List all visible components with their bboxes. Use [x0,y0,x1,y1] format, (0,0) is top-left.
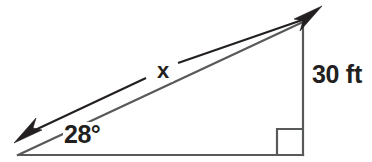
vertical-leg-length-label: 30 ft [312,62,362,87]
arrow-ray-upper-segment [178,18,308,63]
right-angle-marker-icon [277,129,303,155]
angle-label-28-degrees: 28° [63,122,101,147]
geometry-diagram: 28° 30 ft x [0,0,372,162]
arrowhead-up-right-icon [294,6,322,31]
triangle-hypotenuse-line [18,22,303,155]
hypotenuse-variable-label: x [153,60,173,82]
arrowhead-down-left-icon [14,118,42,143]
